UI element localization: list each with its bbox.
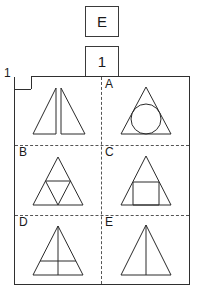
- cell-option-d[interactable]: D: [15, 215, 101, 285]
- figure-two-mirrored-right-triangles: [15, 77, 101, 145]
- figure-triangle-with-altitude-and-midline: [15, 215, 101, 285]
- number-answer-box[interactable]: 1: [85, 46, 119, 77]
- cell-option-e[interactable]: E: [101, 215, 191, 285]
- cell-option-c[interactable]: C: [101, 145, 191, 215]
- figure-triangle-with-medial-triangle: [15, 145, 101, 215]
- figure-triangle-with-inscribed-circle: [101, 77, 191, 145]
- letter-answer-value: E: [97, 14, 107, 29]
- number-answer-value: 1: [98, 54, 106, 69]
- question-number-label: 1: [4, 67, 11, 79]
- cell-question-stem[interactable]: [15, 77, 101, 145]
- letter-answer-box[interactable]: E: [85, 6, 119, 37]
- cell-option-b[interactable]: B: [15, 145, 101, 215]
- matrix-panel: 1 A B C: [14, 77, 190, 285]
- figure-triangle-with-inscribed-square: [101, 145, 191, 215]
- answer-box-group: E 1: [0, 0, 204, 77]
- cell-option-a[interactable]: A: [101, 77, 191, 145]
- figure-triangle-with-altitude: [101, 215, 191, 285]
